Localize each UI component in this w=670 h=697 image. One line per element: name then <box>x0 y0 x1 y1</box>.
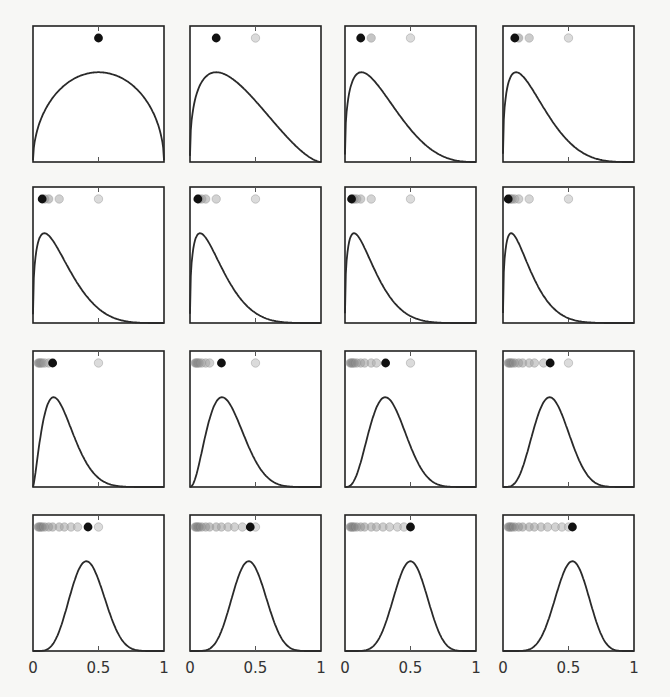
panel-frame <box>33 351 164 487</box>
panel-frame <box>503 515 634 651</box>
current-sample-dot <box>546 359 555 368</box>
past-sample-dot <box>564 359 572 367</box>
x-tick-label: 0.5 <box>244 659 268 677</box>
x-tick-label: 0 <box>185 659 195 677</box>
panel-13: 00.51 <box>28 515 169 677</box>
past-sample-dot <box>525 34 533 42</box>
past-sample-dot <box>515 195 523 203</box>
small-multiples-figure: 00.5100.5100.5100.51 <box>0 0 670 697</box>
past-sample-dot <box>94 195 102 203</box>
current-sample-dot <box>510 34 519 43</box>
past-sample-dot <box>543 523 551 531</box>
panel-11 <box>345 351 476 487</box>
panel-frame <box>345 515 476 651</box>
x-tick-label: 0.5 <box>399 659 423 677</box>
past-sample-dot <box>205 359 213 367</box>
x-tick-label: 1 <box>629 659 639 677</box>
past-sample-dot <box>238 523 246 531</box>
panel-10 <box>190 351 321 487</box>
panel-5 <box>33 187 164 323</box>
panel-frame <box>345 351 476 487</box>
past-sample-dot <box>406 195 414 203</box>
past-sample-dot <box>357 195 365 203</box>
x-tick-label: 1 <box>316 659 326 677</box>
panel-15: 00.51 <box>340 515 481 677</box>
current-sample-dot <box>94 34 103 43</box>
x-tick-label: 1 <box>471 659 481 677</box>
panel-frame <box>503 187 634 323</box>
current-sample-dot <box>84 523 93 532</box>
panel-14: 00.51 <box>185 515 326 677</box>
x-tick-label: 0 <box>340 659 350 677</box>
x-tick-label: 0 <box>498 659 508 677</box>
past-sample-dot <box>55 195 63 203</box>
x-tick-label: 1 <box>159 659 169 677</box>
panel-3 <box>345 26 476 162</box>
past-sample-dot <box>251 195 259 203</box>
current-sample-dot <box>193 195 202 204</box>
past-sample-dot <box>367 195 375 203</box>
past-sample-dot <box>525 195 533 203</box>
past-sample-dot <box>94 523 102 531</box>
current-sample-dot <box>406 523 415 532</box>
panel-9 <box>33 351 164 487</box>
panel-frame <box>345 26 476 162</box>
panel-frame <box>190 26 321 162</box>
x-tick-label: 0.5 <box>557 659 581 677</box>
past-sample-dot <box>94 359 102 367</box>
panel-frame <box>33 187 164 323</box>
panel-4 <box>503 26 634 162</box>
current-sample-dot <box>347 195 356 204</box>
x-tick-label: 0 <box>28 659 38 677</box>
current-sample-dot <box>212 34 221 43</box>
panel-1 <box>33 26 164 162</box>
past-sample-dot <box>367 34 375 42</box>
panel-frame <box>345 187 476 323</box>
past-sample-dot <box>406 359 414 367</box>
past-sample-dot <box>230 523 238 531</box>
past-sample-dot <box>212 195 220 203</box>
past-sample-dot <box>564 34 572 42</box>
current-sample-dot <box>38 195 47 204</box>
panel-frame <box>190 515 321 651</box>
current-sample-dot <box>48 359 57 368</box>
past-sample-dot <box>372 359 380 367</box>
past-sample-dot <box>251 34 259 42</box>
current-sample-dot <box>381 359 390 368</box>
past-sample-dot <box>530 359 538 367</box>
current-sample-dot <box>568 523 577 532</box>
panel-frame <box>33 515 164 651</box>
past-sample-dot <box>251 359 259 367</box>
panel-7 <box>345 187 476 323</box>
x-tick-label: 0.5 <box>87 659 111 677</box>
current-sample-dot <box>356 34 365 43</box>
current-sample-dot <box>504 195 513 204</box>
past-sample-dot <box>385 523 393 531</box>
panel-12 <box>503 351 634 487</box>
panel-6 <box>190 187 321 323</box>
current-sample-dot <box>246 523 255 532</box>
panel-frame <box>190 187 321 323</box>
panel-2 <box>190 26 321 162</box>
current-sample-dot <box>217 359 226 368</box>
past-sample-dot <box>564 195 572 203</box>
panel-8 <box>503 187 634 323</box>
past-sample-dot <box>73 523 81 531</box>
panel-16: 00.51 <box>498 515 639 677</box>
past-sample-dot <box>202 195 210 203</box>
panel-frame <box>33 26 164 162</box>
past-sample-dot <box>406 34 414 42</box>
